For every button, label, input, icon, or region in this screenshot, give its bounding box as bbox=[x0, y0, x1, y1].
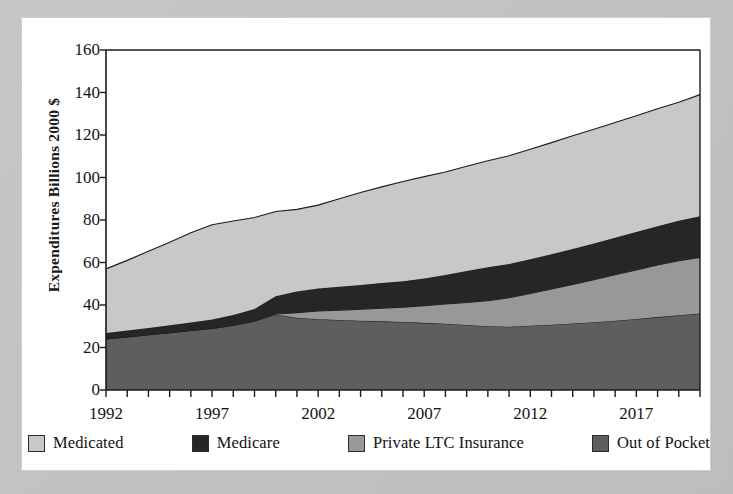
legend-item[interactable]: Medicare bbox=[192, 433, 280, 453]
legend-item-label: Medicated bbox=[53, 433, 124, 453]
chart-figure: Expenditures Billions 2000 $ 02040608010… bbox=[22, 18, 710, 470]
legend-item[interactable]: Private LTC Insurance bbox=[348, 433, 524, 453]
chart-legend: MedicatedMedicarePrivate LTC InsuranceOu… bbox=[28, 426, 710, 460]
legend-swatch-icon bbox=[592, 435, 609, 452]
legend-swatch-icon bbox=[28, 435, 45, 452]
figure-frame: Expenditures Billions 2000 $ 02040608010… bbox=[0, 0, 733, 494]
legend-swatch-icon bbox=[192, 435, 209, 452]
legend-item[interactable]: Out of Pocket bbox=[592, 433, 710, 453]
legend-item-label: Private LTC Insurance bbox=[373, 433, 524, 453]
legend-item-label: Out of Pocket bbox=[617, 433, 710, 453]
legend-swatch-icon bbox=[348, 435, 365, 452]
legend-item-label: Medicare bbox=[217, 433, 280, 453]
figure-page: Expenditures Billions 2000 $ 02040608010… bbox=[22, 18, 710, 470]
legend-item[interactable]: Medicated bbox=[28, 433, 124, 453]
chart-plot-area bbox=[22, 18, 710, 470]
